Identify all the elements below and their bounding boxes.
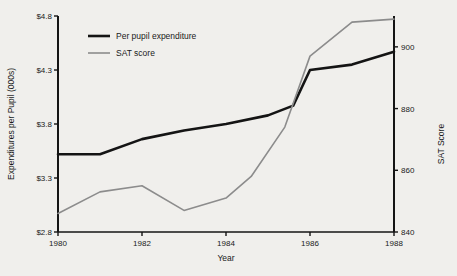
legend-label-expenditure: Per pupil expenditure [116, 31, 197, 41]
y-tick-label-left: $2.8 [36, 228, 52, 237]
chart-container: $2.8$3.3$3.8$4.3$4.884086088090019801982… [0, 0, 457, 276]
y-tick-label-right: 880 [401, 105, 415, 114]
y-axis-title-left: Expenditures per Pupil (000s) [6, 68, 16, 180]
series-line-sat-score [58, 19, 394, 213]
y-axis-title-right: SAT Score [436, 124, 446, 165]
y-tick-label-left: $4.3 [36, 66, 52, 75]
x-tick-label: 1986 [301, 239, 319, 248]
x-axis-title: Year [217, 253, 234, 263]
y-tick-label-left: $4.8 [36, 12, 52, 21]
y-tick-label-right: 900 [401, 43, 415, 52]
x-tick-label: 1984 [217, 239, 235, 248]
y-tick-label-right: 840 [401, 228, 415, 237]
x-tick-label: 1980 [49, 239, 67, 248]
line-chart: $2.8$3.3$3.8$4.3$4.884086088090019801982… [0, 0, 457, 276]
series-line-expenditure [58, 52, 394, 155]
legend-label-sat-score: SAT score [116, 48, 155, 58]
y-tick-label-left: $3.8 [36, 120, 52, 129]
x-tick-label: 1988 [385, 239, 403, 248]
y-tick-label-left: $3.3 [36, 174, 52, 183]
x-tick-label: 1982 [133, 239, 151, 248]
y-tick-label-right: 860 [401, 166, 415, 175]
